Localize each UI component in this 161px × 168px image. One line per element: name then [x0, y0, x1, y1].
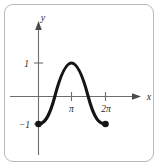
x-axis-label: x — [146, 91, 152, 102]
plot-canvas: y x 1 −1 π 2π — [0, 0, 161, 168]
tick-label-x-two-pi: 2π — [101, 104, 111, 114]
tick-label-y-negative-one: −1 — [19, 120, 30, 130]
endpoint-dot-left — [35, 121, 42, 128]
endpoint-dot-right — [102, 121, 109, 128]
tick-label-x-pi: π — [69, 104, 74, 114]
tick-label-y-one: 1 — [24, 59, 29, 69]
x-axis-arrowhead — [132, 93, 141, 100]
y-axis-label: y — [40, 12, 46, 23]
figure-root: y x 1 −1 π 2π — [0, 0, 161, 168]
